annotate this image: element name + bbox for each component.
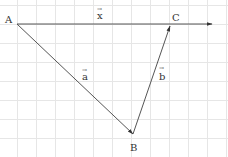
point-b-label: B [130, 142, 137, 153]
vector-diagram: A C B x → a → b → [0, 0, 228, 157]
vector-b-arrow-icon: → [159, 64, 164, 71]
point-c-label: C [172, 12, 180, 23]
vector-x-arrow-icon: → [97, 5, 102, 12]
point-a-label: A [4, 14, 13, 25]
vector-b-label: b [159, 71, 165, 82]
vector-a-arrow-icon: → [82, 66, 87, 73]
